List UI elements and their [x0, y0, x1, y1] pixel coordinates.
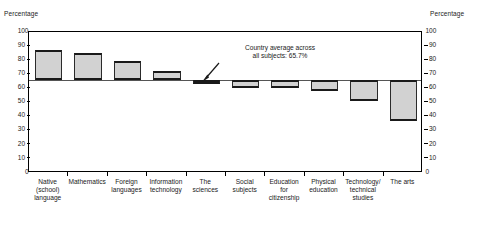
category-separator-tick [107, 172, 108, 176]
left-tick-30: 30 [0, 129, 30, 130]
left-tick-50: 50 [0, 101, 30, 102]
right-tick-90: 90 [424, 45, 454, 46]
tick-mark [27, 87, 31, 88]
right-tick-label: 70 [429, 70, 436, 77]
tick-mark [27, 143, 31, 144]
bar [350, 80, 378, 101]
tick-mark [424, 73, 428, 74]
right-tick-60: 60 [424, 87, 454, 88]
tick-mark [27, 157, 31, 158]
category-label-1: Mathematics [67, 178, 106, 186]
tick-mark [424, 59, 428, 60]
left-tick-label: 50 [18, 98, 25, 105]
tick-mark [424, 157, 428, 158]
category-label-5: Social subjects [225, 178, 264, 194]
left-tick-100: 100 [0, 31, 30, 32]
category-label-7: Physical education [304, 178, 343, 194]
left-tick-label: 40 [18, 112, 25, 119]
left-tick-70: 70 [0, 73, 30, 74]
tick-mark [424, 115, 428, 116]
tick-mark [27, 129, 31, 130]
tick-mark [424, 87, 428, 88]
right-tick-label: 0 [426, 169, 430, 176]
left-tick-label: 0 [25, 169, 29, 176]
right-tick-label: 20 [429, 141, 436, 148]
left-tick-label: 20 [18, 141, 25, 148]
bar [311, 80, 339, 90]
right-tick-label: 40 [429, 112, 436, 119]
left-tick-label: 100 [18, 28, 29, 35]
tick-mark [27, 115, 31, 116]
category-label-0: Native (school) language [28, 178, 67, 203]
country-average-annotation: Country average across all subjects: 65.… [212, 44, 348, 61]
tick-mark [27, 45, 31, 46]
left-tick-20: 20 [0, 143, 30, 144]
category-labels: Native (school) languageMathematicsForei… [28, 178, 422, 228]
right-tick-70: 70 [424, 73, 454, 74]
bar [390, 80, 418, 120]
category-label-4: The sciences [186, 178, 225, 194]
bar [74, 53, 102, 80]
category-label-6: Education for citizenship [264, 178, 303, 203]
category-separator-tick [186, 172, 187, 176]
left-tick-label: 70 [18, 70, 25, 77]
right-tick-label: 50 [429, 98, 436, 105]
category-separator-tick [146, 172, 147, 176]
category-label-8: Technology/ technical studies [343, 178, 382, 203]
left-tick-label: 10 [18, 155, 25, 162]
bar [153, 71, 181, 80]
right-tick-label: 90 [429, 42, 436, 49]
left-tick-label: 90 [18, 42, 25, 49]
tick-mark [27, 73, 31, 74]
right-tick-label: 60 [429, 84, 436, 91]
bar [271, 80, 299, 88]
category-separator-tick [225, 172, 226, 176]
left-tick-label: 60 [18, 84, 25, 91]
left-tick-80: 80 [0, 59, 30, 60]
right-tick-label: 30 [429, 126, 436, 133]
tick-mark [424, 129, 428, 130]
bar-chart: Percentage Percentage 100908070605040302… [0, 0, 479, 231]
bar [232, 80, 260, 87]
annotation-arrow-icon [198, 62, 222, 84]
right-tick-100: 100 [424, 31, 454, 32]
category-separator-tick [264, 172, 265, 176]
tick-mark [424, 45, 428, 46]
right-tick-label: 80 [429, 56, 436, 63]
right-axis-ticks: 1009080706050403020100 [424, 0, 454, 231]
category-label-3: Information technology [146, 178, 185, 194]
tick-mark [424, 101, 428, 102]
left-tick-label: 30 [18, 126, 25, 133]
right-tick-10: 10 [424, 157, 454, 158]
category-separator-tick [343, 172, 344, 176]
left-tick-90: 90 [0, 45, 30, 46]
category-separator-tick [383, 172, 384, 176]
left-tick-40: 40 [0, 115, 30, 116]
right-tick-20: 20 [424, 143, 454, 144]
right-tick-label: 10 [429, 155, 436, 162]
category-label-9: The arts [383, 178, 422, 186]
right-tick-0: 0 [424, 172, 454, 173]
tick-mark [27, 59, 31, 60]
right-tick-label: 100 [426, 28, 437, 35]
bar [114, 61, 142, 80]
tick-mark [27, 101, 31, 102]
category-label-2: Foreign languages [107, 178, 146, 194]
right-tick-80: 80 [424, 59, 454, 60]
left-tick-60: 60 [0, 87, 30, 88]
category-separator-tick [67, 172, 68, 176]
left-tick-label: 80 [18, 56, 25, 63]
right-tick-40: 40 [424, 115, 454, 116]
tick-mark [424, 143, 428, 144]
right-tick-50: 50 [424, 101, 454, 102]
left-tick-10: 10 [0, 157, 30, 158]
left-tick-0: 0 [0, 172, 30, 173]
right-tick-30: 30 [424, 129, 454, 130]
category-separator-tick [304, 172, 305, 176]
bar [35, 50, 63, 80]
left-axis-ticks: 1009080706050403020100 [0, 0, 30, 231]
